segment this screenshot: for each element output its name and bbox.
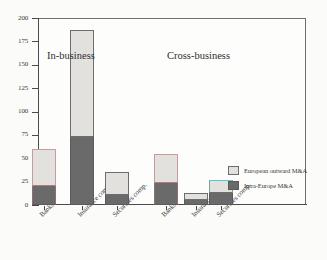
y-axis-tick-label: 100 (2, 108, 28, 115)
y-axis-tick-label: 175 (2, 38, 28, 45)
bar-cross-business-banks (154, 154, 178, 205)
y-axis-tick (32, 18, 38, 19)
bar-in-business-banks (32, 149, 56, 205)
legend-swatch-european-outward (228, 166, 239, 175)
y-axis-tick (32, 205, 38, 206)
y-axis-tick (32, 65, 38, 66)
y-axis-tick (32, 88, 38, 89)
bar-segment-european-outward (70, 30, 94, 137)
bar-segment-european-outward (105, 172, 129, 194)
bar-segment-intra-europe (184, 200, 208, 205)
bar-cross-business-insurance-comp- (184, 193, 208, 205)
bar-segment-european-outward (184, 193, 208, 200)
chart-page: 0255075100125150175200 BanksInsurance co… (0, 0, 327, 260)
y-axis-tick-label: 25 (2, 178, 28, 185)
bar-segment-european-outward (154, 154, 178, 184)
bar-in-business-securities-comp- (105, 172, 129, 205)
y-axis-tick-label: 150 (2, 61, 28, 68)
bar-segment-intra-europe (32, 186, 56, 205)
y-axis-tick-label: 200 (2, 15, 28, 22)
legend-label-european-outward: European outward M&A (244, 167, 307, 174)
bar-segment-intra-europe (209, 193, 233, 205)
chart-legend: European outward M&A Intra-Europe M&A (228, 163, 307, 193)
y-axis-tick (32, 41, 38, 42)
legend-label-intra-europe: Intra-Europe M&A (244, 182, 293, 189)
y-axis-tick-label: 75 (2, 131, 28, 138)
y-axis-tick (32, 135, 38, 136)
y-axis-tick (32, 112, 38, 113)
bar-segment-european-outward (32, 149, 56, 186)
y-axis-tick-label: 0 (2, 202, 28, 209)
bar-segment-intra-europe (105, 195, 129, 205)
bar-segment-intra-europe (154, 183, 178, 205)
legend-item-european-outward: European outward M&A (228, 163, 307, 178)
y-axis-tick-label: 125 (2, 85, 28, 92)
group-caption-cross-business: Cross-business (167, 50, 230, 61)
y-axis-tick-label: 50 (2, 155, 28, 162)
legend-swatch-intra-europe (228, 181, 239, 190)
group-caption-in-business: In-business (47, 50, 95, 61)
legend-item-intra-europe: Intra-Europe M&A (228, 178, 307, 193)
bar-segment-intra-europe (70, 137, 94, 205)
